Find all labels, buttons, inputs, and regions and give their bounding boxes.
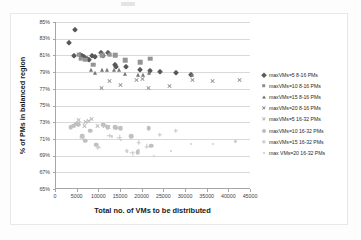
x-axis-tick [185, 189, 186, 192]
gridline [56, 106, 250, 107]
x-axis-tick [250, 189, 251, 192]
legend-item-label: max VMs=20 16-32 PMs [269, 150, 325, 156]
data-point [145, 144, 150, 149]
gridline [56, 172, 250, 173]
legend: maxVMs=5 8-16 PMsmaxVMs=10 8-16 PMsmaxVM… [259, 69, 354, 159]
legend-item-label: maxVMs=10 8-16 PMs [269, 83, 321, 89]
x-axis-tick-label: 30000 [178, 193, 193, 199]
data-point [167, 84, 172, 89]
data-point [99, 85, 104, 90]
y-axis-title: % of PMs in balanced region [18, 36, 27, 176]
x-axis-tick-label: 0 [54, 193, 57, 199]
chart-container: 65%67%69%71%73%75%77%79%81%83%85% 050001… [0, 0, 361, 240]
gridline [56, 89, 250, 90]
x-axis-tick-label: 40000 [221, 193, 236, 199]
data-point [76, 122, 81, 127]
data-point [170, 149, 172, 151]
data-point [173, 128, 178, 133]
x-axis-tick [77, 189, 78, 192]
data-point [105, 68, 109, 72]
x-axis-tick-label: 15000 [113, 193, 128, 199]
legend-marker-circle-icon [259, 126, 268, 135]
data-point [234, 140, 236, 142]
legend-item-label: maxVMs=15 8-16 PMs [269, 94, 321, 100]
x-axis-tick [98, 189, 99, 192]
gridline [56, 39, 250, 40]
data-point [89, 67, 93, 71]
data-point [95, 123, 100, 128]
legend-marker-x-light-icon [259, 115, 268, 124]
x-axis-tick [120, 189, 121, 192]
legend-item[interactable]: maxVMs=5 8-16 PMs [259, 69, 354, 80]
data-point [136, 140, 141, 145]
legend-item-label: maxVMs=5 16-32 PMs [269, 116, 321, 122]
x-axis-title: Total no. of VMs to be distributed [55, 206, 250, 215]
x-axis-tick-label: 10000 [91, 193, 106, 199]
x-axis-tick-label: 20000 [134, 193, 149, 199]
data-point [147, 71, 151, 75]
data-point [112, 68, 116, 72]
x-axis-tick-label: 5000 [71, 193, 83, 199]
data-point [65, 40, 71, 46]
data-point [148, 56, 153, 61]
x-axis-tick-label: 25000 [156, 193, 171, 199]
data-point [130, 151, 135, 156]
legend-item-label: maxVMs=10 16-32 PMs [269, 128, 324, 134]
data-point [129, 134, 134, 139]
plot-area [55, 22, 250, 189]
legend-item[interactable]: max VMs=20 16-32 PMs [259, 147, 354, 158]
data-point [120, 139, 122, 141]
legend-item[interactable]: maxVMs=10 8-16 PMs [259, 80, 354, 91]
data-point [107, 52, 112, 57]
x-axis-tick [207, 189, 208, 192]
data-point [134, 77, 139, 82]
data-point [138, 60, 143, 65]
data-point [83, 57, 88, 62]
image-artifact [121, 2, 135, 6]
data-point [190, 77, 195, 82]
data-point [123, 64, 129, 70]
data-point [91, 62, 96, 67]
x-axis-tick [55, 189, 56, 192]
legend-marker-dot-icon [259, 148, 268, 157]
data-point [111, 135, 113, 137]
data-point [107, 79, 112, 84]
data-point [190, 143, 192, 145]
data-point [212, 143, 214, 145]
legend-marker-triangle-icon [259, 92, 268, 101]
legend-item[interactable]: maxVMs=5 16-32 PMs [259, 114, 354, 125]
data-point [100, 53, 105, 58]
legend-item[interactable]: maxVMs=20 8-16 PMs [259, 103, 354, 114]
data-point [140, 76, 145, 81]
data-point [237, 78, 242, 83]
data-point [210, 79, 215, 84]
legend-marker-plus-icon [259, 137, 268, 146]
data-point [89, 116, 94, 121]
x-axis-tick [163, 189, 164, 192]
legend-item-label: maxVMs=5 8-16 PMs [269, 72, 318, 78]
gridline [56, 22, 250, 23]
data-point [156, 69, 162, 75]
legend-item[interactable]: maxVMs=10 16-32 PMs [259, 125, 354, 136]
data-point [118, 82, 123, 87]
legend-item[interactable]: maxVMs=15 8-16 PMs [259, 91, 354, 102]
legend-item[interactable]: maxVMs=15 16-32 PMs [259, 136, 354, 147]
x-axis-tick-label: 45000 [243, 193, 258, 199]
data-point [72, 27, 78, 33]
legend-marker-x-icon [259, 104, 268, 113]
data-point [157, 132, 162, 137]
data-point [117, 68, 121, 72]
data-point [123, 58, 128, 63]
x-axis-tick [142, 189, 143, 192]
data-point [113, 53, 118, 58]
data-point [146, 126, 151, 131]
x-axis-tick [228, 189, 229, 192]
data-point [113, 125, 118, 130]
x-axis-tick-label: 35000 [199, 193, 214, 199]
data-point [149, 143, 154, 148]
legend-marker-square-icon [259, 81, 268, 90]
data-point [123, 72, 127, 76]
data-point [93, 71, 97, 75]
data-point [118, 126, 123, 131]
legend-item-label: maxVMs=15 16-32 PMs [269, 139, 324, 145]
